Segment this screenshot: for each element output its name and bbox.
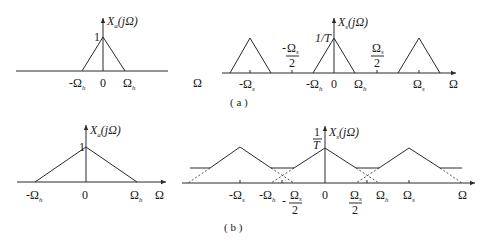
tick-neg-omega-h: -Ωh [69,76,86,92]
spectrum-replica-right [398,38,440,73]
replica-tail [440,168,462,183]
y-axis-label: Xs(jΩ) [328,125,359,141]
y-axis-label: Xa(jΩ) [106,14,138,30]
tick-zero: 0 [331,77,337,91]
tick-neg-half-num: Ωs [287,41,299,56]
tick-pos-half-den: 2 [374,56,380,70]
tick-omega-h: Ωh [123,76,136,92]
x-axis-label: Ω [449,77,458,91]
x-axis-label: Ω [155,188,164,202]
tick-neg-omega-s: -Ωs [239,77,255,93]
panel-a-right: Ω Xs(jΩ) 1/T - Ωs 2 Ωs 2 -Ωs -Ωh 0 Ωh Ωs… [193,15,458,93]
y-axis-label: Xs(jΩ) [337,15,368,31]
tick-neg-half-sign: - [282,41,286,55]
tick-pos-half-num: Ωs [350,188,362,203]
panel-a-left: Xa(jΩ) 1 -Ωh 0 Ωh [16,14,168,92]
sampling-spectrum-diagram: Xa(jΩ) 1 -Ωh 0 Ωh Ω Xs(jΩ) 1/T - Ωs 2 Ωs… [0,0,488,247]
tick-neg-half-den: 2 [289,56,295,70]
tick-neg-half-sign: - [282,194,286,208]
aliased-spectrum [190,147,462,168]
peak-label: 1/T [315,31,332,45]
x-axis-label: Ω [458,188,467,202]
panel-b-right: 1 T Xs(jΩ) -Ωs -Ωh - Ωs 2 0 Ωs 2 Ωh Ωs Ω [182,125,475,217]
peak-label-den: T [313,138,321,152]
caption-b: ( b ) [224,221,243,234]
tick-zero: 0 [322,188,328,202]
tick-pos-half-den: 2 [352,203,358,217]
peak-label: 1 [79,140,85,154]
tick-zero: 0 [100,76,106,90]
tick-omega-h: Ωh [354,77,367,93]
tick-omega-h: Ωh [376,188,389,204]
tick-omega-s: Ωs [413,77,425,93]
x-axis-label-left: Ω [193,76,202,90]
peak-label-num: 1 [314,125,320,139]
peak-label: 1 [94,30,100,44]
panel-b-left: Xa(jΩ) 1 -Ωh 0 Ωh Ω [17,123,166,204]
tick-omega-h: Ωh [130,188,143,204]
tick-neg-omega-s: -Ωs [229,188,245,204]
tick-neg-half-den: 2 [292,203,298,217]
tick-neg-omega-h: -Ωh [259,188,276,204]
replica-tail [188,168,210,183]
tick-omega-s: Ωs [403,188,415,204]
caption-a: ( a ) [230,96,248,109]
y-axis-label: Xa(jΩ) [89,123,121,139]
tick-pos-half-num: Ωs [372,41,384,56]
tick-neg-half-num: Ωs [290,188,302,203]
tick-neg-omega-h: -Ωh [26,188,43,204]
spectrum-replica-left [230,38,271,73]
tick-neg-omega-h: -Ωh [306,77,323,93]
tick-zero: 0 [82,188,88,202]
